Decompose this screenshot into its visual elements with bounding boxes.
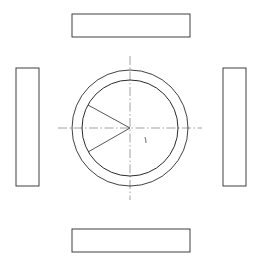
radius-lines [88, 105, 146, 152]
figure-caption [0, 250, 262, 266]
load-block-top [72, 14, 190, 37]
load-block-left [16, 68, 39, 186]
load-block-right [223, 68, 246, 186]
figure-canvas [0, 0, 262, 266]
load-block-bottom [72, 229, 190, 252]
ring-load-figure [0, 0, 262, 266]
